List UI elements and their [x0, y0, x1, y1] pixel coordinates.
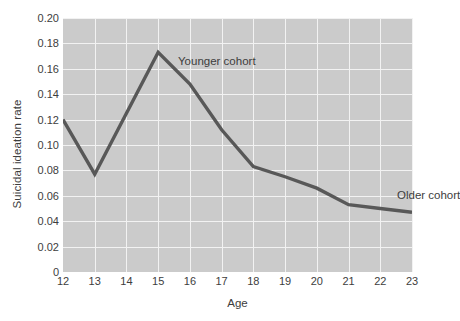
- x-axis-tick-label: 21: [334, 275, 364, 287]
- x-axis-tick-label: 12: [48, 275, 78, 287]
- x-axis-tick-label: 14: [111, 275, 141, 287]
- x-axis-tick-label: 13: [80, 275, 110, 287]
- x-axis-tick-label: 17: [207, 275, 237, 287]
- x-axis-tick-label: 19: [270, 275, 300, 287]
- x-axis-tick-label: 22: [365, 275, 395, 287]
- x-axis-tick-label: 23: [397, 275, 427, 287]
- x-axis-tick-label: 18: [238, 275, 268, 287]
- x-axis-tick-label: 16: [175, 275, 205, 287]
- x-axis-tick-label: 20: [302, 275, 332, 287]
- x-axis-tick-label: 15: [143, 275, 173, 287]
- x-axis-title: Age: [63, 296, 412, 310]
